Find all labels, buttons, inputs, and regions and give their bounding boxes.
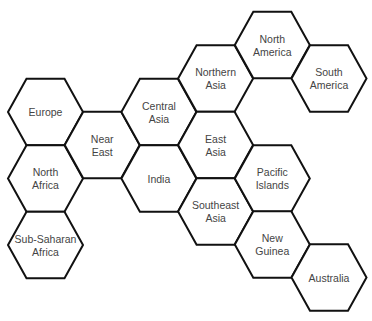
region-label: Africa xyxy=(32,246,59,258)
region-label: Africa xyxy=(32,179,59,191)
region-label: America xyxy=(310,79,349,91)
region-label: East xyxy=(92,146,113,158)
region-label: India xyxy=(148,173,171,185)
region-label: Asia xyxy=(205,79,226,91)
region-label: America xyxy=(253,46,292,58)
region-label: Near xyxy=(91,133,114,145)
region-hex-sub-saharan-africa: Sub-SaharanAfrica xyxy=(8,212,83,279)
hex-map-canvas: EuropeNorthAfricaSub-SaharanAfricaNearEa… xyxy=(0,0,372,321)
hexagon-region-diagram: EuropeNorthAfricaSub-SaharanAfricaNearEa… xyxy=(0,0,372,321)
region-label: Asia xyxy=(205,146,226,158)
region-label: Asia xyxy=(149,113,170,125)
region-label: North xyxy=(33,166,59,178)
region-label: South xyxy=(315,66,343,78)
region-label: Australia xyxy=(309,272,350,284)
region-label: Guinea xyxy=(255,245,289,257)
region-label: Southeast xyxy=(192,199,239,211)
region-label: Asia xyxy=(205,212,226,224)
region-label: Central xyxy=(142,100,176,112)
region-label: Europe xyxy=(29,106,63,118)
region-label: New xyxy=(262,232,283,244)
region-label: Sub-Saharan xyxy=(15,233,77,245)
region-label: Islands xyxy=(256,179,289,191)
region-label: Pacific xyxy=(257,166,288,178)
region-label: East xyxy=(205,133,226,145)
region-label: North xyxy=(259,33,285,45)
region-label: Northern xyxy=(195,66,236,78)
